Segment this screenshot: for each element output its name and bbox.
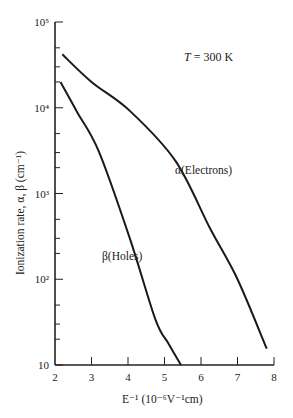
plot-area: 1010²10³10⁴10⁵2345678 xyxy=(0,0,293,418)
temperature-value: 300 K xyxy=(203,50,233,64)
ionization-rate-chart: 1010²10³10⁴10⁵2345678 T = 300 K α(Electr… xyxy=(0,0,293,418)
x-tick-label: 6 xyxy=(198,371,204,383)
electrons-curve xyxy=(62,54,266,348)
y-tick-label: 10 xyxy=(38,359,50,371)
x-tick-label: 3 xyxy=(89,371,95,383)
holes-label: β(Holes) xyxy=(102,250,142,262)
y-tick-label: 10³ xyxy=(35,188,50,200)
x-tick-label: 8 xyxy=(271,371,277,383)
y-tick-label: 10⁵ xyxy=(34,16,49,28)
y-axis-label: Ionization rate, α, β (cm⁻¹) xyxy=(13,133,27,293)
x-tick-label: 2 xyxy=(52,371,58,383)
y-tick-label: 10² xyxy=(35,273,50,285)
holes-curve xyxy=(60,82,180,365)
y-tick-label: 10⁴ xyxy=(34,102,49,114)
x-tick-label: 7 xyxy=(235,371,241,383)
x-axis-label: E⁻¹ (10⁻⁶V⁻¹cm) xyxy=(122,392,203,406)
x-tick-label: 5 xyxy=(162,371,168,383)
temperature-annotation: T = 300 K xyxy=(184,50,233,65)
electrons-label: α(Electrons) xyxy=(175,164,232,176)
x-tick-label: 4 xyxy=(125,371,131,383)
